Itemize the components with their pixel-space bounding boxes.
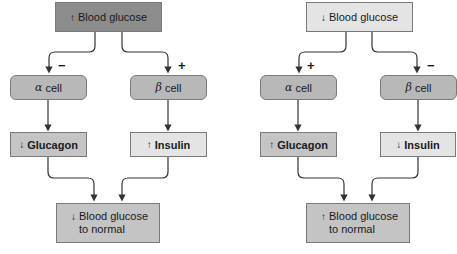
alpha-symbol: α [285, 81, 292, 94]
down-arrow-icon: ↓ [321, 12, 326, 23]
label: cell [165, 82, 182, 94]
right-result-box: ↑Blood glucose to normal [306, 203, 410, 243]
label: Glucagon [27, 139, 78, 151]
left-top-blood-glucose-box: ↑ Blood glucose [55, 2, 162, 32]
beta-symbol: β [156, 81, 162, 94]
right-top-blood-glucose-box: ↓ Blood glucose [306, 2, 413, 32]
left-beta-cell: β cell [130, 75, 207, 100]
up-arrow-icon: ↑ [321, 211, 326, 222]
label: Blood glucose [79, 210, 148, 222]
left-alpha-cell: α cell [10, 75, 87, 100]
stimulate-sign: + [307, 58, 315, 73]
label: Blood glucose [78, 11, 147, 23]
label: cell [415, 82, 432, 94]
inhibit-sign: − [427, 58, 435, 73]
down-arrow-icon: ↓ [19, 139, 24, 150]
left-insulin-box: ↑ Insulin [130, 132, 207, 157]
left-result-box: ↓Blood glucose to normal [56, 203, 160, 243]
up-arrow-icon: ↑ [269, 139, 274, 150]
right-alpha-cell: α cell [260, 75, 337, 100]
up-arrow-icon: ↑ [70, 12, 75, 23]
label: to normal [71, 223, 125, 236]
label: Glucagon [277, 139, 328, 151]
label: to normal [321, 223, 375, 236]
label: Insulin [155, 139, 190, 151]
down-arrow-icon: ↓ [396, 139, 401, 150]
label: cell [295, 82, 312, 94]
label: Blood glucose [329, 210, 398, 222]
stimulate-sign: + [178, 58, 186, 73]
beta-symbol: β [406, 81, 412, 94]
label: Insulin [404, 139, 439, 151]
up-arrow-icon: ↑ [147, 139, 152, 150]
label: cell [45, 82, 62, 94]
down-arrow-icon: ↓ [71, 211, 76, 222]
right-beta-cell: β cell [380, 75, 457, 100]
alpha-symbol: α [35, 81, 42, 94]
left-glucagon-box: ↓ Glucagon [10, 132, 87, 157]
right-glucagon-box: ↑ Glucagon [260, 132, 337, 157]
inhibit-sign: − [58, 58, 66, 73]
right-insulin-box: ↓ Insulin [380, 132, 456, 157]
label: Blood glucose [329, 11, 398, 23]
